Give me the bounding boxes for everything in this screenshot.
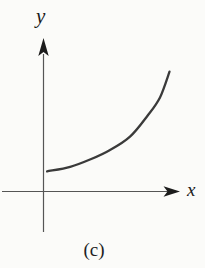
x-axis-label: x xyxy=(187,180,195,199)
exponential-curve xyxy=(47,72,169,172)
plot-canvas xyxy=(0,0,205,268)
figure-caption: (c) xyxy=(0,240,188,259)
function-graph-figure: y x (c) xyxy=(0,0,205,268)
y-axis-label: y xyxy=(36,6,45,27)
y-axis-arrowhead xyxy=(38,38,48,56)
